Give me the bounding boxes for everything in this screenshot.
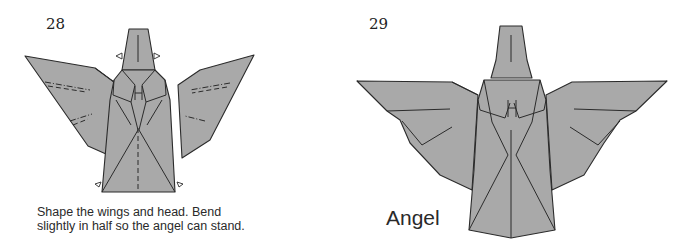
caption-line-1: Shape the wings and head. Bend: [37, 205, 245, 219]
step-number-29: 29: [369, 15, 388, 33]
left-wing: [357, 81, 478, 190]
rotate-arrow-icon: [116, 53, 122, 59]
body: [469, 80, 555, 238]
right-wing: [546, 81, 667, 190]
left-wing: [25, 56, 118, 158]
rotate-arrow-icon: [177, 182, 183, 187]
model-title: Angel: [386, 206, 440, 230]
step-28-caption: Shape the wings and head. Bend slightly …: [37, 205, 245, 233]
rotate-arrow-icon: [95, 182, 101, 187]
right-wing: [178, 55, 254, 158]
caption-line-2: slightly in half so the angel can stand.: [37, 219, 245, 233]
head: [491, 26, 532, 78]
rotate-arrow-icon: [154, 53, 160, 59]
angel-diagram-step-28: [0, 0, 350, 200]
